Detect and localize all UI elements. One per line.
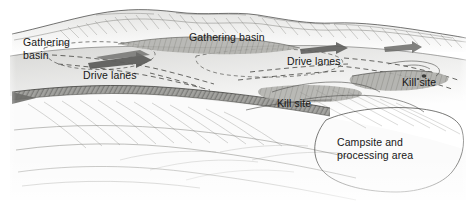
landscape-drawing bbox=[0, 0, 475, 211]
illustration-figure: Gatheringbasin Gathering basin Drive lan… bbox=[0, 0, 475, 211]
